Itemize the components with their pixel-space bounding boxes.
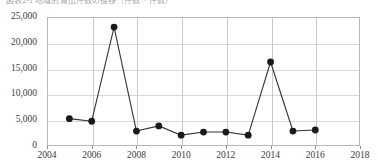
- data-point-marker: [267, 59, 274, 66]
- x-axis-tick-mark: [92, 146, 93, 149]
- data-point-marker: [312, 127, 319, 134]
- data-series: [47, 17, 360, 146]
- y-axis-tick-label: 0: [32, 141, 37, 151]
- x-axis-tick-label: 2016: [306, 151, 325, 161]
- x-axis-tick-mark: [226, 146, 227, 149]
- x-axis-tick-label: 2004: [38, 151, 57, 161]
- x-axis-tick-mark: [181, 146, 182, 149]
- data-point-marker: [200, 129, 207, 136]
- data-point-marker: [155, 122, 162, 129]
- x-axis-tick-label: 2010: [172, 151, 191, 161]
- data-point-marker: [290, 128, 297, 135]
- x-axis-tick-label: 2006: [82, 151, 101, 161]
- y-axis-tick-label: 25,000: [11, 12, 37, 22]
- data-point-marker: [88, 118, 95, 125]
- x-axis-tick-label: 2012: [216, 151, 235, 161]
- y-axis-tick-label: 10,000: [11, 89, 37, 99]
- x-axis-tick-label: 2014: [261, 151, 280, 161]
- x-axis-tick-label: 2008: [127, 151, 146, 161]
- data-point-marker: [222, 129, 229, 136]
- x-axis-tick-mark: [360, 146, 361, 149]
- data-point-marker: [133, 128, 140, 135]
- data-point-marker: [245, 132, 252, 139]
- data-point-marker: [66, 115, 73, 122]
- y-axis-tick-label: 15,000: [11, 64, 37, 74]
- data-point-marker: [178, 132, 185, 139]
- series-line: [69, 27, 315, 135]
- x-axis-tick-mark: [136, 146, 137, 149]
- x-axis-tick-mark: [271, 146, 272, 149]
- data-point-marker: [111, 24, 118, 31]
- chart-title: 図表2-1 地域別貸出件数の推移（件数・件数）: [6, 0, 173, 6]
- x-axis-tick-mark: [47, 146, 48, 149]
- line-chart: 図表2-1 地域別貸出件数の推移（件数・件数） 05,00010,00015,0…: [0, 0, 378, 168]
- x-axis-tick-label: 2018: [351, 151, 370, 161]
- x-axis-tick-mark: [315, 146, 316, 149]
- y-axis-tick-label: 5,000: [16, 115, 37, 125]
- y-axis-tick-label: 20,000: [11, 38, 37, 48]
